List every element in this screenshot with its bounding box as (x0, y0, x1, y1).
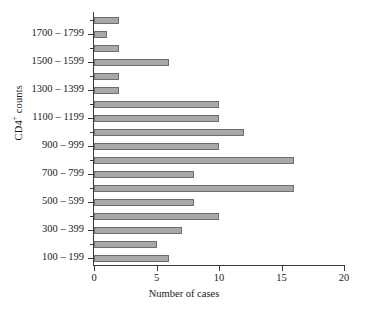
y-axis-minor-tick (90, 48, 93, 49)
y-axis-minor-tick (90, 216, 93, 217)
bar (94, 185, 294, 192)
y-axis-tick (88, 202, 93, 203)
x-axis-tick-label: 5 (137, 272, 177, 283)
x-axis-title: Number of cases (0, 288, 368, 299)
y-axis-tick-label: 1100 – 1199 (0, 111, 84, 122)
bar (94, 143, 219, 150)
bar (94, 59, 169, 66)
y-axis-tick (88, 230, 93, 231)
y-axis-tick-label: 700 – 799 (0, 167, 84, 178)
y-axis-minor-tick (90, 132, 93, 133)
bar (94, 101, 219, 108)
x-axis-tick (344, 266, 345, 271)
y-axis-tick (88, 118, 93, 119)
y-axis-tick (88, 146, 93, 147)
y-axis-minor-tick (90, 104, 93, 105)
x-axis-tick (157, 266, 158, 271)
x-axis-tick-label: 0 (74, 272, 114, 283)
y-axis-minor-tick (90, 160, 93, 161)
y-axis-tick (88, 34, 93, 35)
bar (94, 171, 194, 178)
bar (94, 227, 182, 234)
y-axis-minor-tick (90, 20, 93, 21)
y-axis-tick (88, 174, 93, 175)
bar (94, 17, 119, 24)
bar (94, 241, 157, 248)
bar (94, 73, 119, 80)
x-axis-tick (282, 266, 283, 271)
x-axis-tick-label: 15 (262, 272, 302, 283)
bar (94, 255, 169, 262)
y-axis-tick-label: 300 – 399 (0, 223, 84, 234)
x-axis-tick-label: 10 (199, 272, 239, 283)
bar (94, 157, 294, 164)
y-axis-title-text: CD4 (13, 120, 24, 140)
y-axis-tick-label: 900 – 999 (0, 139, 84, 150)
y-axis-tick-label: 100 – 199 (0, 251, 84, 262)
y-axis-tick (88, 258, 93, 259)
bar (94, 87, 119, 94)
y-axis-minor-tick (90, 244, 93, 245)
bar (94, 199, 194, 206)
bar (94, 31, 107, 38)
y-axis-minor-tick (90, 76, 93, 77)
x-axis-tick (219, 266, 220, 271)
y-axis-tick (88, 62, 93, 63)
y-axis-tick-label: 1700 – 1799 (0, 27, 84, 38)
x-axis-tick (94, 266, 95, 271)
bar (94, 213, 219, 220)
y-axis-tick-label: 1500 – 1599 (0, 55, 84, 66)
y-axis-tick-label: 1300 – 1399 (0, 83, 84, 94)
y-axis-minor-tick (90, 188, 93, 189)
y-axis-tick-label: 500 – 599 (0, 195, 84, 206)
bar (94, 115, 219, 122)
x-axis-tick-label: 20 (324, 272, 364, 283)
y-axis-tick (88, 90, 93, 91)
bar (94, 129, 244, 136)
bar-chart: CD4+ counts 100 – 199300 – 399500 – 5997… (0, 0, 368, 309)
bar (94, 45, 119, 52)
